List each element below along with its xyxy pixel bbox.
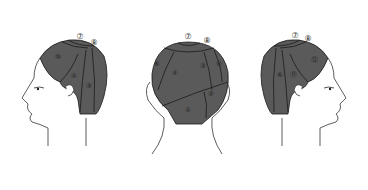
label-8: ⑧ [90, 38, 97, 47]
label-3: ③ [200, 62, 206, 70]
label-11: ⑪ [290, 71, 297, 79]
label-1: ① [185, 106, 191, 114]
label-6: ⑥ [277, 71, 283, 79]
label-3: ③ [86, 82, 92, 90]
label-8: ⑧ [304, 34, 311, 43]
label-6: ⑥ [154, 60, 160, 68]
diagram-canvas: ⑩ ④ ③ ⑦ ⑧ ⑥ ④ ③ ⑤ ② ① ⑦ ⑧ [0, 0, 368, 190]
label-5: ⑤ [216, 60, 222, 68]
right-profile-head: ⑫ ⑪ ⑥ ⑦ ⑧ [261, 31, 346, 147]
label-10: ⑩ [55, 53, 61, 61]
back-view-head: ⑥ ④ ③ ⑤ ② ① ⑦ ⑧ [146, 32, 229, 155]
label-7: ⑦ [76, 32, 83, 41]
label-8: ⑧ [203, 36, 210, 45]
label-7: ⑦ [184, 32, 191, 41]
label-7: ⑦ [291, 31, 298, 40]
label-12: ⑫ [311, 56, 318, 64]
left-profile-head: ⑩ ④ ③ ⑦ ⑧ [22, 32, 107, 147]
label-4: ④ [172, 69, 178, 77]
hair-section-diagram: ⑩ ④ ③ ⑦ ⑧ ⑥ ④ ③ ⑤ ② ① ⑦ ⑧ [0, 0, 368, 190]
label-2: ② [208, 90, 214, 98]
label-4: ④ [71, 72, 77, 80]
